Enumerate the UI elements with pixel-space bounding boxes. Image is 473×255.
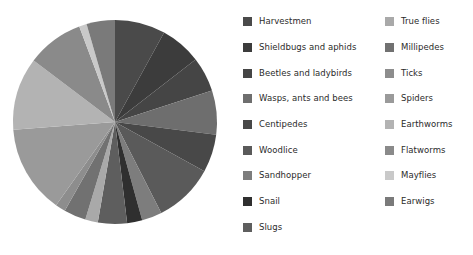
legend-color-swatch [243, 69, 252, 78]
legend-item[interactable]: Beetles and ladybirds [243, 60, 385, 86]
legend-item[interactable]: Snail [243, 189, 385, 215]
legend-color-swatch [243, 197, 252, 206]
legend-item[interactable]: Centipedes [243, 112, 385, 138]
legend-item-label: Shieldbugs and aphids [259, 42, 356, 53]
legend-item-label: Wasps, ants and bees [259, 93, 353, 104]
legend-color-swatch [243, 223, 252, 232]
legend-color-swatch [385, 171, 394, 180]
legend-color-swatch [385, 94, 394, 103]
legend-color-swatch [385, 69, 394, 78]
legend-item-label: Millipedes [401, 42, 444, 53]
legend-item-label: Snail [259, 196, 280, 207]
pie-slices-group [13, 20, 217, 224]
legend-item[interactable]: Mayflies [385, 163, 473, 189]
legend-item[interactable]: Woodlice [243, 137, 385, 163]
legend-column-left: HarvestmenShieldbugs and aphidsBeetles a… [243, 9, 385, 249]
legend-color-swatch [243, 43, 252, 52]
legend-color-swatch [385, 17, 394, 26]
legend-item[interactable]: Earthworms [385, 112, 473, 138]
legend-item-label: Harvestmen [259, 16, 312, 27]
legend-item[interactable]: Ticks [385, 60, 473, 86]
legend-color-swatch [385, 43, 394, 52]
legend-color-swatch [243, 171, 252, 180]
legend-item[interactable]: Millipedes [385, 35, 473, 61]
legend-color-swatch [243, 120, 252, 129]
legend-item[interactable]: Sandhopper [243, 163, 385, 189]
legend-item-label: Spiders [401, 93, 433, 104]
legend-item-label: Earthworms [401, 119, 453, 130]
pie-chart-area [0, 0, 236, 255]
legend-item-label: Centipedes [259, 119, 307, 130]
legend-item-label: Ticks [401, 68, 423, 79]
legend-item-label: True flies [401, 16, 440, 27]
legend-item-label: Earwigs [401, 196, 435, 207]
pie-chart-page: HarvestmenShieldbugs and aphidsBeetles a… [0, 0, 473, 255]
legend-item[interactable]: True flies [385, 9, 473, 35]
legend-item[interactable]: Flatworms [385, 137, 473, 163]
legend-item-label: Mayflies [401, 170, 436, 181]
legend-item[interactable]: Spiders [385, 86, 473, 112]
legend-color-swatch [385, 197, 394, 206]
legend-color-swatch [243, 17, 252, 26]
legend-item[interactable]: Slugs [243, 215, 385, 241]
chart-legend: HarvestmenShieldbugs and aphidsBeetles a… [243, 9, 473, 249]
legend-item-label: Woodlice [259, 145, 298, 156]
pie-chart-svg [0, 0, 236, 255]
legend-item-label: Flatworms [401, 145, 445, 156]
legend-item[interactable]: Earwigs [385, 189, 473, 215]
legend-item-label: Sandhopper [259, 170, 311, 181]
legend-color-swatch [243, 146, 252, 155]
legend-color-swatch [243, 94, 252, 103]
legend-color-swatch [385, 146, 394, 155]
legend-column-right: True fliesMillipedesTicksSpidersEarthwor… [385, 9, 473, 249]
legend-item[interactable]: Shieldbugs and aphids [243, 35, 385, 61]
legend-item-label: Beetles and ladybirds [259, 68, 352, 79]
legend-item[interactable]: Wasps, ants and bees [243, 86, 385, 112]
legend-item-label: Slugs [259, 222, 282, 233]
legend-color-swatch [385, 120, 394, 129]
legend-item[interactable]: Harvestmen [243, 9, 385, 35]
